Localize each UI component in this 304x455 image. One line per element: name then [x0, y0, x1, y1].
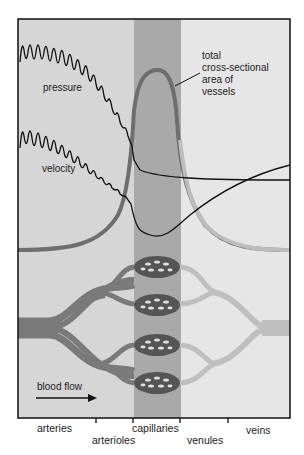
- capillary-bed: [134, 334, 180, 356]
- circulation-diagram: pressure velocity total cross-sectional …: [0, 0, 304, 455]
- axis-label-capillaries: capillaries: [132, 422, 179, 434]
- velocity-label: velocity: [42, 163, 75, 174]
- blood-flow-label: blood flow: [37, 381, 82, 392]
- pressure-label: pressure: [43, 82, 82, 93]
- axis-label-arterioles: arterioles: [92, 434, 135, 446]
- capillary-bed: [134, 372, 180, 394]
- area-label-4: vessels: [202, 86, 235, 97]
- area-label-3: area of: [202, 74, 233, 85]
- area-label-2: cross-sectional: [202, 62, 269, 73]
- axis-label-arteries: arteries: [37, 422, 72, 434]
- capillary-bed: [134, 256, 180, 278]
- venous-band: [181, 19, 290, 418]
- axis-label-veins: veins: [246, 424, 271, 436]
- capillary-bed: [134, 294, 180, 316]
- area-label-1: total: [202, 50, 221, 61]
- axis-label-venules: venules: [187, 434, 223, 446]
